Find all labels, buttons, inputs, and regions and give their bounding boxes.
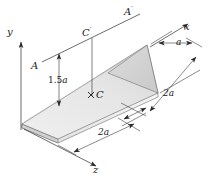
x-axis-line [150, 24, 188, 47]
figure-drawing-canvas [0, 0, 212, 182]
dim-2a-right-line [150, 57, 196, 111]
axis-label-z: z [93, 165, 98, 175]
axis-label-y: y [7, 27, 13, 37]
dimension-label-2a-front: 2a [98, 128, 109, 137]
point-label-A-prime-mark: ′ [131, 5, 133, 13]
point-label-A-prime: A′ [124, 6, 133, 17]
engineering-figure: y x z A A′ C′ C 1.5a a 2a 2a [0, 0, 212, 182]
point-label-C-prime: C′ [82, 27, 91, 38]
ext-a-right [186, 38, 202, 47]
ext-front-right [118, 118, 140, 131]
dimension-label-2a-right: 2a [163, 89, 174, 98]
dimension-label-1-5a-number: 1.5 [48, 75, 62, 85]
ext-apex-up [151, 31, 172, 44]
point-label-C-prime-text: C [82, 27, 90, 38]
ext-front-left [58, 145, 76, 155]
dimension-label-1-5a-unit: a [62, 75, 67, 85]
dimension-label-1-5a: 1.5a [48, 76, 68, 85]
point-label-C-prime-mark: ′ [90, 26, 92, 34]
point-label-C: C [96, 90, 104, 100]
point-label-A: A [31, 61, 38, 71]
axis-label-x: x [184, 22, 190, 32]
dimension-label-a: a [176, 38, 181, 47]
